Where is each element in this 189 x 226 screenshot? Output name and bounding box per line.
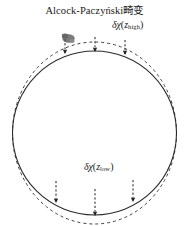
- distorted-ellipse-shape: [13, 42, 177, 224]
- low-z-label: δχ(zlow): [84, 161, 114, 172]
- diagram-canvas: [0, 0, 189, 226]
- high-z-subscript: high: [128, 23, 140, 30]
- high-z-close-paren: ): [140, 19, 143, 30]
- alcock-paczynski-figure: Alcock-Paczyński畸变: [0, 0, 189, 226]
- low-z-arrow-group: [56, 180, 133, 215]
- high-z-label: δχ(zhigh): [112, 19, 143, 30]
- low-z-subscript: low: [100, 165, 110, 172]
- low-z-close-paren: ): [110, 161, 113, 172]
- ink-smudge-artifact: [62, 34, 75, 43]
